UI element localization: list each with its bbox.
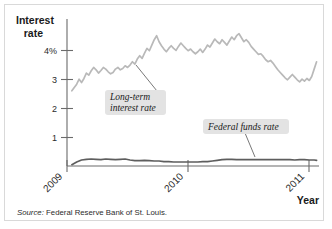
leader-line	[136, 65, 157, 91]
y-axis-title-line2: rate	[24, 27, 43, 39]
annotation-text-line2: interest rate	[110, 103, 156, 113]
y-axis-title-line1: Interest	[16, 14, 54, 26]
y-tick-label: 4%	[44, 46, 57, 56]
x-tick-label: 2009	[41, 170, 65, 194]
y-tick-label: 3	[52, 75, 57, 85]
source-body: Federal Reserve Bank of St. Louis.	[44, 208, 167, 217]
source-note: Source: Federal Reserve Bank of St. Loui…	[17, 208, 167, 217]
x-axis-title: Year	[297, 194, 319, 206]
source-prefix: Source:	[17, 208, 44, 217]
series-line-long-term-interest-rate	[72, 34, 317, 91]
annotation-long-term-interest-rate: Long-term interest rate	[105, 65, 166, 115]
y-axis-ticks: 4% 3 2 1	[44, 46, 73, 143]
x-axis-ticks: 2009 2010 2011	[41, 160, 309, 194]
annotation-text-line1: Federal funds rate	[207, 122, 279, 132]
series-line-federal-funds-rate	[72, 159, 317, 165]
annotation-text-line1: Long-term	[109, 92, 150, 102]
y-tick-label: 1	[52, 133, 57, 143]
x-tick-label: 2011	[283, 170, 306, 193]
leader-line	[245, 133, 255, 157]
annotation-federal-funds-rate: Federal funds rate	[203, 119, 289, 157]
figure-card: Interest rate 4% 3 2 1 2009 2010 2011 Ye…	[4, 4, 324, 221]
y-tick-label: 2	[52, 104, 57, 114]
interest-rate-line-chart: Interest rate 4% 3 2 1 2009 2010 2011 Ye…	[5, 5, 325, 222]
x-tick-label: 2010	[162, 170, 186, 194]
